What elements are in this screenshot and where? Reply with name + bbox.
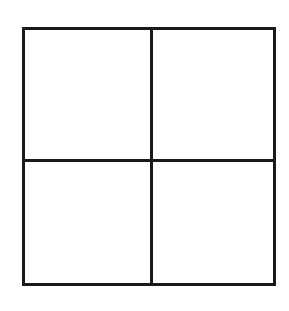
grid-cell-bottom-left: [25, 162, 150, 283]
grid-cell-top-right: [153, 30, 273, 159]
grid-cell-bottom-right: [153, 162, 273, 283]
grid-cell-top-left: [25, 30, 150, 159]
horizontal-divider: [25, 159, 273, 162]
vertical-divider: [150, 30, 153, 283]
two-by-two-grid: [22, 27, 276, 286]
